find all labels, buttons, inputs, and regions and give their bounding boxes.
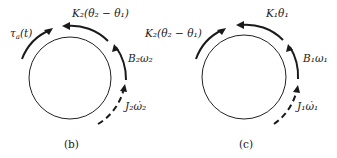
spring-arrowhead-icon — [62, 22, 70, 30]
damper-label-c: B₁ω₁ — [302, 52, 328, 64]
spring-arc-c — [240, 25, 283, 40]
spring-label-b: K₂(θ₂ − θ₁) — [71, 7, 129, 19]
inertia-arrowhead-c-icon — [293, 85, 300, 93]
spring-arrowhead-c-icon — [236, 21, 244, 29]
damper-arc-c — [290, 47, 298, 79]
spring-arc-b — [66, 26, 108, 41]
free-body-diagrams: τa(t) K₂(θ₂ − θ₁) B₂ω₂ J₂ω̇₂ (b) K₂(θ₂ −… — [0, 0, 337, 158]
inertia-label-c: J₁ω̇₁ — [295, 100, 318, 112]
inertia-label-b: J₂ω̇₂ — [123, 100, 146, 112]
inertia-arrowhead-icon — [120, 84, 127, 92]
coupling-label: K₂(θ₂ − θ₁) — [144, 27, 202, 39]
rotor-disk-b — [29, 37, 111, 119]
panel-c: K₂(θ₂ − θ₁) K₁θ₁ B₁ω₁ J₁ω̇₁ (c) — [144, 7, 328, 150]
torque-label: τa(t) — [10, 27, 32, 41]
spring-label-c: K₁θ₁ — [265, 7, 289, 19]
rotor-disk-c — [202, 35, 286, 119]
damper-arc-b — [116, 47, 126, 80]
inertia-arc-b — [98, 88, 124, 124]
caption-b: (b) — [64, 138, 79, 150]
inertia-arc-c — [274, 89, 297, 124]
caption-c: (c) — [239, 138, 253, 150]
damper-label-b: B₂ω₂ — [127, 52, 153, 64]
panel-b: τa(t) K₂(θ₂ − θ₁) B₂ω₂ J₂ω̇₂ (b) — [10, 7, 153, 150]
